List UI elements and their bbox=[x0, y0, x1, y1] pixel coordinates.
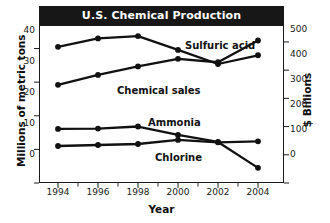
chart-figure: U.S. Chemical Production 0 10 20 30 40 0… bbox=[0, 0, 330, 223]
chart-title-banner: U.S. Chemical Production bbox=[39, 6, 284, 25]
chart-title: U.S. Chemical Production bbox=[82, 9, 241, 22]
series-label-chlorine: Chlorine bbox=[155, 152, 202, 163]
y-axis-label-left: Millions of metric tons bbox=[15, 37, 27, 167]
y-axis-label-right: $ Billions bbox=[301, 55, 313, 145]
ytick-right-0: 0 bbox=[290, 149, 314, 159]
xtick-1994: 1994 bbox=[43, 187, 73, 197]
xtick-2004: 2004 bbox=[243, 187, 273, 197]
xtick-2002: 2002 bbox=[203, 187, 233, 197]
xtick-2000: 2000 bbox=[163, 187, 193, 197]
series-label-chemical-sales: Chemical sales bbox=[117, 85, 201, 96]
series-label-sulfuric-acid: Sulfuric acid bbox=[185, 40, 255, 51]
xtick-1998: 1998 bbox=[123, 187, 153, 197]
x-axis-label: Year bbox=[39, 203, 284, 215]
xtick-1996: 1996 bbox=[83, 187, 113, 197]
ytick-right-500: 500 bbox=[290, 24, 314, 34]
series-label-ammonia: Ammonia bbox=[148, 117, 201, 128]
